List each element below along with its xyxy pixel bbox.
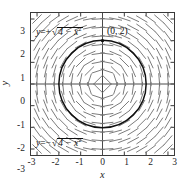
x-tick-label-neg1: -1 xyxy=(71,158,88,168)
point-label: (0, 2) xyxy=(107,27,128,37)
marked-points xyxy=(101,39,104,42)
lower-label-radicand: 4 − x xyxy=(58,138,78,148)
x-axis-title: x xyxy=(100,170,105,181)
x-tick-label-1: 1 xyxy=(119,158,134,168)
sqrt-icon: √4 − x2 xyxy=(51,27,83,38)
x-tick-label-0: 0 xyxy=(95,158,110,168)
slope-field-figure: 3 2 1 0 -1 -2 -3 -3 -2 -1 0 2 1 3 y x y=… xyxy=(0,0,187,184)
upper-label-radicand: 4 − x xyxy=(58,27,78,37)
y-axis-title: y xyxy=(0,81,11,86)
marked-point xyxy=(101,39,104,42)
lower-label-exponent: 2 xyxy=(78,136,81,143)
x-tick-label-neg2: -2 xyxy=(47,158,64,168)
y-tick-label-3: 3 xyxy=(8,27,25,37)
y-tick-label-neg2: -2 xyxy=(4,144,25,154)
y-tick-label-neg3: -3 xyxy=(4,165,25,175)
x-tick-label-3: 3 xyxy=(167,158,182,168)
upper-label-exponent: 2 xyxy=(78,25,81,32)
x-tick-label-2: 2 xyxy=(143,158,158,168)
y-tick-label-2: 2 xyxy=(8,50,25,60)
upper-branch-label: y=+√4 − x2 xyxy=(36,27,83,38)
sqrt-icon: √4 − x2 xyxy=(51,138,83,149)
x-tick-label-neg3: -3 xyxy=(23,158,40,168)
lower-branch-label: y=−√4 − x2 xyxy=(36,138,83,149)
y-tick-label-neg1: -1 xyxy=(4,121,25,131)
y-tick-label-0: 0 xyxy=(8,97,25,107)
